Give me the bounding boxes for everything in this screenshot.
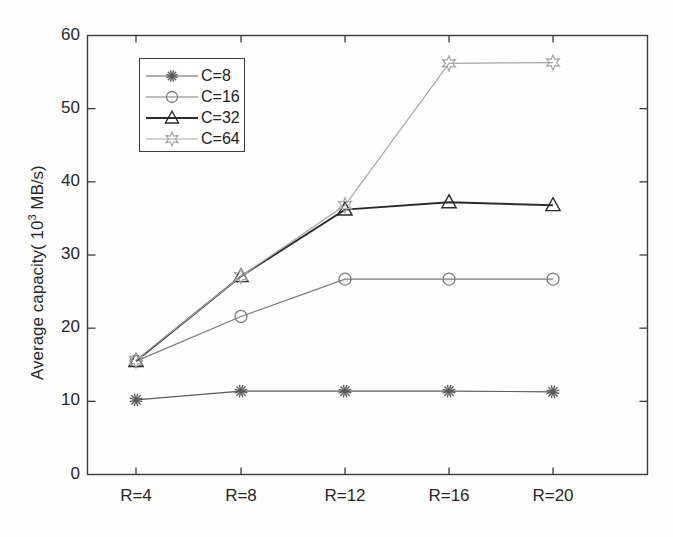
legend-item-c-8[interactable]: C=8	[140, 65, 246, 87]
x-tick-label: R=4	[91, 486, 181, 506]
y-tick-label: 10	[28, 390, 80, 410]
chart-legend: C=8C=16C=32C=64	[139, 58, 245, 152]
legend-swatch-star-icon	[144, 129, 200, 149]
y-tick-label: 50	[28, 98, 80, 118]
series-c-32	[129, 195, 560, 367]
legend-item-c-16[interactable]: C=16	[140, 86, 246, 108]
series-c-8	[130, 385, 560, 406]
y-axis-title-post: MB/s)	[28, 165, 47, 214]
y-tick-label: 0	[28, 464, 80, 484]
legend-item-c-32[interactable]: C=32	[140, 107, 246, 129]
x-tick-label: R=20	[508, 486, 598, 506]
legend-swatch-triangle-icon	[144, 108, 200, 128]
legend-label: C=16	[201, 88, 240, 106]
x-tick-label: R=12	[300, 486, 390, 506]
series-c-16	[130, 273, 559, 367]
legend-swatch-asterisk-icon	[144, 66, 200, 86]
y-tick-label: 60	[28, 25, 80, 45]
legend-label: C=32	[201, 109, 240, 127]
y-axis-title-exponent: 3	[26, 214, 38, 220]
legend-label: C=64	[201, 130, 240, 148]
legend-label: C=8	[201, 67, 231, 85]
plot-canvas	[0, 0, 673, 537]
y-axis-title: Average capacity( 103 MB/s)	[28, 165, 48, 380]
legend-swatch-circle-icon	[144, 87, 200, 107]
y-axis-title-pre: Average capacity( 10	[28, 221, 47, 380]
x-tick-label: R=16	[404, 486, 494, 506]
legend-item-c-64[interactable]: C=64	[140, 128, 246, 150]
chart-figure: 0102030405060R=4R=8R=12R=16R=20 Average …	[0, 0, 673, 537]
x-tick-label: R=8	[196, 486, 286, 506]
